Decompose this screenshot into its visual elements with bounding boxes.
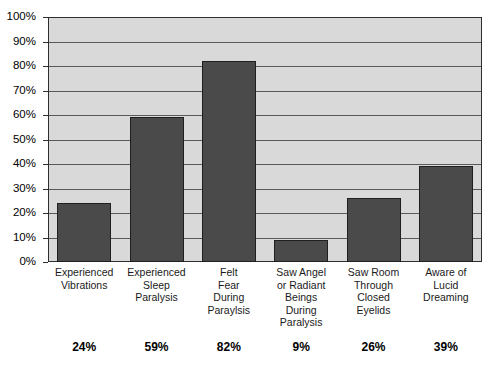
y-tick-label: 80% [13, 60, 36, 72]
y-axis: 0%10%20%30%40%50%60%70%80%90%100% [0, 17, 42, 262]
value-label: 82% [193, 340, 265, 354]
y-tick-label: 20% [13, 207, 36, 219]
value-label: 59% [120, 340, 192, 354]
y-tick-label: 0% [19, 256, 36, 268]
value-labels-row: 24%59%82%9%26%39% [48, 340, 482, 360]
y-tick-label: 50% [13, 134, 36, 146]
category-label-line: Paralysis [120, 291, 192, 304]
category-label-line: Through [337, 279, 409, 292]
category-label-line: Sleep [120, 279, 192, 292]
category-label: Saw Angelor RadiantBeingsDuringParalysis [265, 266, 337, 329]
category-label-line: or Radiant [265, 279, 337, 292]
category-label-line: Fear [193, 279, 265, 292]
category-label-line: During [193, 291, 265, 304]
category-label-line: Beings [265, 291, 337, 304]
category-label: Aware ofLucidDreaming [410, 266, 482, 304]
bar [347, 198, 401, 262]
value-label: 39% [410, 340, 482, 354]
value-label: 24% [48, 340, 120, 354]
bar [130, 117, 184, 262]
y-tick-label: 40% [13, 158, 36, 170]
value-label: 26% [337, 340, 409, 354]
category-label-line: Experienced [120, 266, 192, 279]
y-tick-label: 10% [13, 232, 36, 244]
value-label: 9% [265, 340, 337, 354]
y-tick-mark [43, 262, 48, 263]
category-label-line: Saw Angel [265, 266, 337, 279]
y-tick-label: 30% [13, 183, 36, 195]
category-label: Saw RoomThroughClosedEyelids [337, 266, 409, 316]
category-label-line: Paralysis [265, 316, 337, 329]
category-label-line: Lucid [410, 279, 482, 292]
category-label-line: Vibrations [48, 279, 120, 292]
y-tick-label: 90% [13, 36, 36, 48]
category-label-line: Closed [337, 291, 409, 304]
bar [57, 203, 111, 262]
category-label-line: Eyelids [337, 304, 409, 317]
bar [274, 240, 328, 262]
category-label: ExperiencedSleepParalysis [120, 266, 192, 304]
bar-chart: 0%10%20%30%40%50%60%70%80%90%100% Experi… [0, 0, 496, 378]
bar [202, 61, 256, 262]
category-label-line: Saw Room [337, 266, 409, 279]
chart-title-cropped [0, 0, 496, 2]
y-tick-label: 100% [7, 11, 36, 23]
category-label-line: Paraylsis [193, 304, 265, 317]
y-tick-label: 70% [13, 85, 36, 97]
category-label-line: Felt [193, 266, 265, 279]
bar [419, 166, 473, 262]
category-label: ExperiencedVibrations [48, 266, 120, 291]
y-tick-label: 60% [13, 109, 36, 121]
bars-layer [48, 17, 482, 262]
category-label-line: Aware of [410, 266, 482, 279]
category-label-line: Experienced [48, 266, 120, 279]
x-axis-category-labels: ExperiencedVibrationsExperiencedSleepPar… [48, 266, 482, 330]
category-label-line: Dreaming [410, 291, 482, 304]
category-label: FeltFearDuringParaylsis [193, 266, 265, 316]
category-label-line: During [265, 304, 337, 317]
